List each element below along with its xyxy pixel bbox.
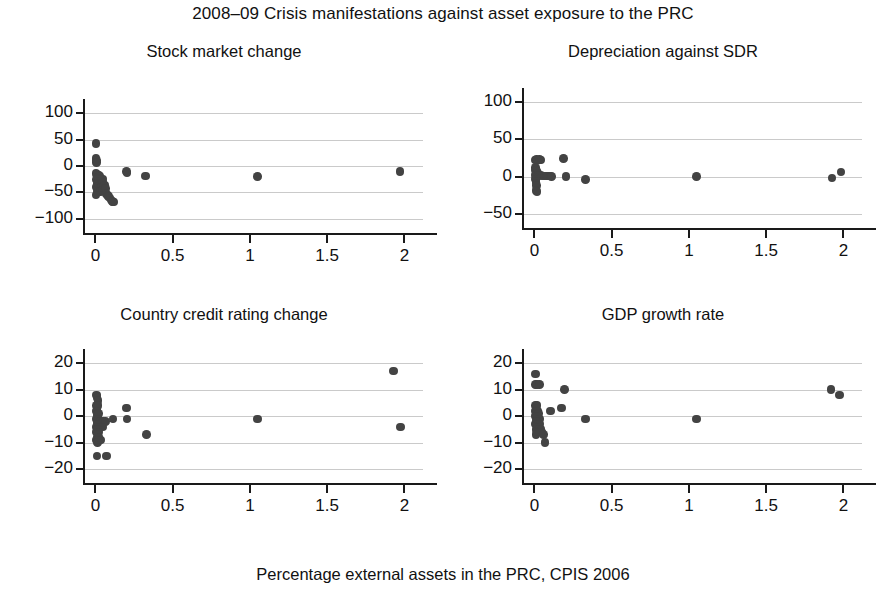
- x-axis-tick: [403, 485, 405, 493]
- data-point: [253, 415, 262, 424]
- data-point: [396, 423, 405, 432]
- x-axis-tick: [172, 485, 174, 493]
- data-point: [827, 385, 836, 394]
- data-point: [557, 404, 566, 413]
- x-axis-tick: [842, 230, 844, 238]
- figure-title: 2008–09 Crisis manifestations against as…: [0, 4, 886, 24]
- plot-area: −5005010000.511.52: [522, 89, 862, 227]
- x-axis-tick: [688, 485, 690, 493]
- gridline-y: [522, 363, 862, 364]
- x-axis-tick: [249, 485, 251, 493]
- x-axis-line: [522, 228, 876, 230]
- data-point: [581, 175, 590, 184]
- x-axis-tick-label: 2: [813, 496, 873, 516]
- data-point: [389, 367, 398, 376]
- x-axis-tick-label: 2: [374, 246, 434, 266]
- data-point: [141, 172, 150, 181]
- data-point: [546, 407, 555, 416]
- x-axis-tick-label: 2: [374, 496, 434, 516]
- x-axis-tick-label: 0.5: [582, 496, 642, 516]
- data-point: [92, 158, 101, 167]
- gridline-y: [83, 192, 423, 193]
- x-axis-tick-label: 0.5: [143, 246, 203, 266]
- x-axis-tick: [326, 235, 328, 243]
- x-axis-tick-label: 1: [659, 496, 719, 516]
- y-axis-line: [522, 349, 524, 483]
- data-point: [835, 391, 844, 400]
- x-axis-tick-label: 0: [504, 241, 564, 261]
- gridline-y: [83, 140, 423, 141]
- data-point: [92, 139, 101, 148]
- panel-depreciation-against-sdr: Depreciation against SDR −5005010000.511…: [440, 42, 886, 292]
- x-axis-tick-label: 2: [813, 241, 873, 261]
- data-point: [692, 415, 701, 424]
- y-axis-tick-label: 0: [11, 405, 73, 425]
- gridline-y: [522, 214, 862, 215]
- y-axis-line: [522, 88, 524, 227]
- data-point: [109, 415, 118, 424]
- y-axis-tick-label: 20: [450, 352, 512, 372]
- x-axis-tick-label: 0: [65, 496, 125, 516]
- gridline-y: [83, 166, 423, 167]
- y-axis-tick-label: −50: [450, 203, 512, 223]
- y-axis-tick-label: 50: [450, 128, 512, 148]
- data-point: [122, 404, 131, 413]
- x-axis-tick: [172, 235, 174, 243]
- panel-title: GDP growth rate: [440, 305, 886, 324]
- x-axis-tick-label: 1.5: [297, 496, 357, 516]
- gridline-y: [522, 469, 862, 470]
- x-axis-tick-label: 1.5: [297, 246, 357, 266]
- x-axis-tick: [842, 485, 844, 493]
- data-point: [123, 169, 132, 178]
- y-axis-tick-label: 10: [450, 379, 512, 399]
- x-axis-tick-label: 1.5: [736, 496, 796, 516]
- data-point: [547, 172, 556, 181]
- gridline-y: [83, 443, 423, 444]
- data-point: [837, 168, 846, 177]
- data-point: [560, 385, 569, 394]
- data-point: [531, 370, 540, 379]
- x-axis-tick-label: 1: [659, 241, 719, 261]
- plot-area: −20−100102000.511.52: [522, 350, 862, 485]
- gridline-y: [83, 219, 423, 220]
- y-axis-tick-label: 100: [11, 102, 73, 122]
- panel-title: Country credit rating change: [0, 305, 448, 324]
- x-axis-tick: [765, 485, 767, 493]
- y-axis-tick-label: −100: [11, 208, 73, 228]
- x-axis-caption: Percentage external assets in the PRC, C…: [0, 565, 886, 584]
- x-axis-tick-label: 1: [220, 246, 280, 266]
- y-axis-tick-label: 50: [11, 129, 73, 149]
- x-axis-tick: [249, 235, 251, 243]
- data-point: [581, 415, 590, 424]
- y-axis-tick-label: −10: [11, 432, 73, 452]
- data-point: [533, 187, 542, 196]
- y-axis-line: [83, 99, 85, 233]
- y-axis-tick-label: 0: [450, 405, 512, 425]
- x-axis-tick: [326, 485, 328, 493]
- data-point: [123, 415, 132, 424]
- panel-title: Stock market change: [0, 42, 448, 61]
- gridline-y: [522, 139, 862, 140]
- plot-area: −20−100102000.511.52: [83, 350, 423, 485]
- data-point: [109, 198, 118, 207]
- data-point: [93, 452, 102, 461]
- data-point: [828, 174, 837, 183]
- data-point: [102, 452, 111, 461]
- data-point: [253, 172, 262, 181]
- gridline-y: [83, 363, 423, 364]
- gridline-y: [522, 443, 862, 444]
- gridline-y: [83, 113, 423, 114]
- y-axis-tick-label: 100: [450, 91, 512, 111]
- y-axis-tick-label: −20: [450, 458, 512, 478]
- y-axis-tick-label: −50: [11, 181, 73, 201]
- gridline-y: [522, 102, 862, 103]
- x-axis-tick: [611, 230, 613, 238]
- gridline-y: [522, 390, 862, 391]
- x-axis-tick: [765, 230, 767, 238]
- gridline-y: [83, 469, 423, 470]
- x-axis-line: [522, 483, 876, 485]
- plot-area: −100−5005010000.511.52: [83, 100, 423, 232]
- panel-title: Depreciation against SDR: [440, 42, 886, 61]
- x-axis-tick-label: 0.5: [143, 496, 203, 516]
- y-axis-tick-label: 0: [450, 166, 512, 186]
